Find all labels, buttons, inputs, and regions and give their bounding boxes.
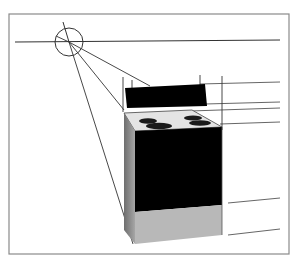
- vertical-guide: [63, 22, 69, 42]
- stove-side: [124, 113, 135, 244]
- perspective-diagram: [0, 0, 300, 260]
- stove-front: [135, 127, 222, 212]
- stove-backsplash: [125, 84, 207, 108]
